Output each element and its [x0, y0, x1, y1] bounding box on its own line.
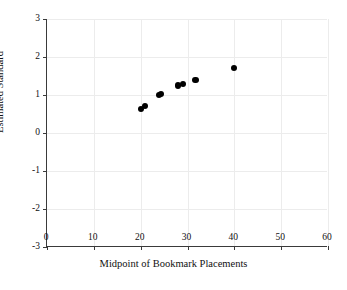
y-axis-tick-label: 1	[22, 90, 40, 100]
x-axis-tick-label: 40	[229, 233, 239, 243]
x-axis-tick	[188, 246, 189, 250]
x-axis-label: Midpoint of Bookmark Placements	[0, 258, 347, 269]
x-axis-tick-label: 30	[182, 233, 192, 243]
y-axis-tick-label: -3	[22, 242, 40, 252]
gridline-horizontal	[47, 95, 327, 96]
data-point	[231, 65, 237, 71]
y-axis-tick-label: 0	[22, 128, 40, 138]
data-point	[142, 103, 148, 109]
y-axis-tick	[43, 247, 47, 248]
x-axis-tick-label: 10	[88, 233, 98, 243]
gridline-horizontal	[47, 19, 327, 20]
x-axis-tick	[141, 246, 142, 250]
gridline-horizontal	[47, 133, 327, 134]
data-point	[158, 91, 164, 97]
gridline-horizontal	[47, 171, 327, 172]
gridline-horizontal	[47, 57, 327, 58]
data-point	[180, 81, 186, 87]
x-axis-tick-label: 0	[44, 233, 49, 243]
y-axis-tick	[43, 171, 47, 172]
y-axis-tick-label: 2	[22, 52, 40, 62]
y-axis-tick	[43, 19, 47, 20]
data-point	[192, 77, 198, 83]
gridline-horizontal	[47, 209, 327, 210]
x-axis-tick	[328, 246, 329, 250]
x-axis-tick-label: 50	[275, 233, 285, 243]
scatter-chart-figure: Midpoint of Bookmark Placements Estimate…	[0, 0, 347, 290]
x-axis-tick	[47, 246, 48, 250]
y-axis-label: Estimated Standard	[0, 51, 5, 133]
x-axis-tick	[281, 246, 282, 250]
gridline-vertical	[328, 19, 329, 246]
y-axis-tick	[43, 95, 47, 96]
x-axis-tick	[234, 246, 235, 250]
x-axis-tick-label: 60	[322, 233, 332, 243]
y-axis-tick	[43, 133, 47, 134]
y-axis-tick	[43, 57, 47, 58]
y-axis-tick-label: -1	[22, 166, 40, 176]
y-axis-tick-label: 3	[22, 14, 40, 24]
y-axis-tick-label: -2	[22, 204, 40, 214]
x-axis-tick	[94, 246, 95, 250]
plot-area	[46, 19, 327, 247]
y-axis-tick	[43, 209, 47, 210]
x-axis-tick-label: 20	[135, 233, 145, 243]
